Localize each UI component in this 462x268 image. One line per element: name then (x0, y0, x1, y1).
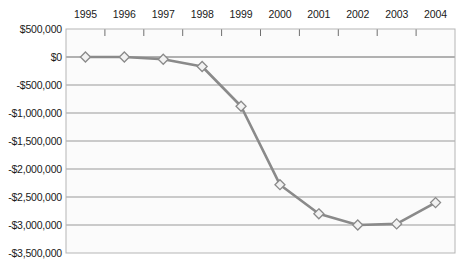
x-axis-tick-label: 2000 (268, 8, 291, 20)
x-axis-tick-label: 2002 (346, 8, 369, 20)
x-axis-tick-label: 1999 (230, 8, 253, 20)
x-axis-tick-label: 1997 (152, 8, 175, 20)
x-axis-tick-label: 1995 (74, 8, 97, 20)
line-chart: $500,000$0-$500,000-$1,000,000-$1,500,00… (0, 0, 462, 268)
x-axis-tick-label: 2004 (424, 8, 447, 20)
x-axis-tick-label: 2003 (385, 8, 408, 20)
x-axis-tick-label: 1996 (113, 8, 136, 20)
x-axis-labels: 1995199619971998199920002001200220032004 (0, 0, 462, 268)
x-axis-tick-label: 2001 (307, 8, 330, 20)
x-axis-tick-label: 1998 (191, 8, 214, 20)
